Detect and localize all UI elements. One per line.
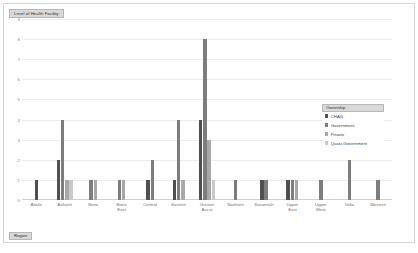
y-axis-tick-label: 6 [18, 77, 20, 82]
legend-item[interactable]: CHAG [322, 112, 384, 121]
x-axis-tick-label: Northern [221, 202, 249, 212]
bar[interactable] [57, 160, 60, 200]
bar[interactable] [203, 39, 206, 200]
bar[interactable] [146, 180, 149, 200]
x-axis-tick-label: Bono East [107, 202, 135, 212]
legend-item[interactable]: Government [322, 121, 384, 130]
x-axis-tick-label: Ashanti [50, 202, 78, 212]
bar[interactable] [177, 120, 180, 200]
legend-item-label: Government [331, 123, 355, 128]
legend-swatch-icon [325, 123, 328, 126]
x-axis-tick-label: Savannah [250, 202, 278, 212]
bar[interactable] [234, 180, 237, 200]
x-axis-tick-label: Greater Accra [193, 202, 221, 212]
bar[interactable] [291, 180, 294, 200]
y-axis-tick-label: 5 [18, 97, 20, 102]
bar-group [193, 19, 221, 200]
bar[interactable] [65, 180, 68, 200]
y-axis-tick-label: 2 [18, 157, 20, 162]
legend-item[interactable]: Private [322, 130, 384, 139]
y-axis-tick-label: 8 [18, 37, 20, 42]
bar[interactable] [348, 160, 351, 200]
bar-group [79, 19, 107, 200]
x-axis-tick-label: Upper East [278, 202, 306, 212]
bar-group [250, 19, 278, 200]
x-axis-tick-label: Western [364, 202, 392, 212]
legend: Ownership CHAGGovernmentPrivateQuasi-Gov… [322, 104, 384, 148]
bar[interactable] [376, 180, 379, 200]
x-axis-tick-label: Central [136, 202, 164, 212]
x-axis-field-chip[interactable]: Region [9, 232, 32, 240]
bar-group [221, 19, 249, 200]
legend-item-label: CHAG [331, 114, 343, 119]
legend-swatch-icon [325, 141, 328, 144]
legend-swatch-icon [325, 114, 328, 117]
bar[interactable] [89, 180, 92, 200]
legend-item[interactable]: Quasi-Government [322, 139, 384, 148]
x-axis-tick-label: Ahafo [22, 202, 50, 212]
bar[interactable] [295, 180, 298, 200]
legend-title-field-chip[interactable]: Ownership [322, 104, 384, 112]
y-axis-tick-label: 4 [18, 117, 20, 122]
y-axis-tick-label: 3 [18, 137, 20, 142]
bar[interactable] [173, 180, 176, 200]
bar[interactable] [199, 120, 202, 200]
x-axis-tick-label: Eastern [164, 202, 192, 212]
legend-swatch-icon [325, 132, 328, 135]
y-axis-tick-label: 0 [18, 198, 20, 203]
x-axis-tick-label: Bono [79, 202, 107, 212]
bar[interactable] [319, 180, 322, 200]
y-axis: 0123456789 [9, 19, 21, 200]
legend-item-label: Quasi-Government [331, 141, 367, 146]
bar-group [22, 19, 50, 200]
legend-items: CHAGGovernmentPrivateQuasi-Government [322, 112, 384, 148]
y-axis-tick-label: 9 [18, 17, 20, 22]
bar[interactable] [69, 180, 72, 200]
bar[interactable] [118, 180, 121, 200]
bar[interactable] [61, 120, 64, 200]
bar[interactable] [264, 180, 267, 200]
x-axis-tick-label: Volta [335, 202, 363, 212]
y-axis-tick-label: 7 [18, 57, 20, 62]
bar[interactable] [35, 180, 38, 200]
bar[interactable] [207, 140, 210, 200]
bar[interactable] [94, 180, 97, 200]
bar[interactable] [212, 180, 215, 200]
bar[interactable] [151, 160, 154, 200]
bar-group [278, 19, 306, 200]
bar[interactable] [260, 180, 263, 200]
bar-group [50, 19, 78, 200]
bar[interactable] [181, 180, 184, 200]
bar-group [107, 19, 135, 200]
bar-group [136, 19, 164, 200]
y-axis-tick-label: 1 [18, 177, 20, 182]
bar[interactable] [286, 180, 289, 200]
bar-group [164, 19, 192, 200]
chart-container: Level of Health Facility 0123456789 Ahaf… [0, 0, 418, 253]
x-axis-tick-label: Upper West [307, 202, 335, 212]
legend-item-label: Private [331, 132, 344, 137]
bar[interactable] [122, 180, 125, 200]
x-axis: AhafoAshantiBonoBono EastCentralEasternG… [22, 202, 392, 212]
